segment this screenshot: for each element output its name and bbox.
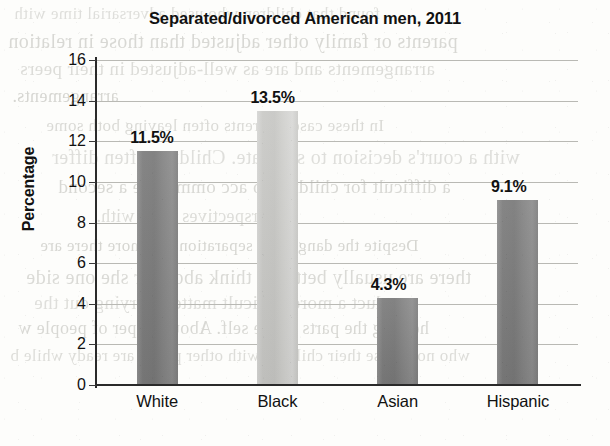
x-axis-category-label-white: White (97, 392, 217, 411)
bar-value-label-asian: 4.3% (371, 276, 407, 294)
y-axis-tick-label: 8 (16, 214, 86, 232)
chart-title: Separated/divorced American men, 2011 (0, 9, 610, 28)
bar-value-label-black: 13.5% (250, 89, 294, 107)
y-axis-tick-label: 4 (16, 295, 86, 313)
bar-value-label-hispanic: 9.1% (491, 178, 527, 196)
y-axis-tick (89, 141, 96, 142)
bar-shading (257, 111, 298, 385)
gridline (97, 60, 578, 61)
bar-white[interactable] (137, 151, 178, 385)
y-axis-tick-label: 10 (16, 173, 86, 191)
gridline (97, 101, 578, 102)
y-axis-tick (89, 304, 96, 305)
bar-black[interactable] (257, 111, 298, 385)
y-axis-tick (89, 344, 96, 345)
bar-shading (497, 200, 538, 385)
bar-chart: Separated/divorced American men, 2011 Pe… (0, 0, 610, 446)
bar-asian[interactable] (377, 298, 418, 385)
x-axis-category-label-hispanic: Hispanic (458, 392, 578, 411)
x-axis-line (95, 384, 581, 386)
y-axis-tick (89, 385, 96, 386)
y-axis-tick-label: 12 (16, 132, 86, 150)
bar-shading (137, 151, 178, 385)
y-axis-tick (89, 60, 96, 61)
y-axis-tick (89, 182, 96, 183)
y-axis-tick-label: 0 (16, 376, 86, 394)
x-axis-category-label-black: Black (217, 392, 337, 411)
y-axis-tick (89, 263, 96, 264)
plot-area (97, 60, 578, 385)
y-axis-tick-label: 2 (16, 335, 86, 353)
y-axis-tick (89, 223, 96, 224)
bar-shading (377, 298, 418, 385)
y-axis-tick-labels: 1614121086420 (8, 0, 86, 446)
bar-hispanic[interactable] (497, 200, 538, 385)
y-axis-tick-label: 16 (16, 51, 86, 69)
bar-value-label-white: 11.5% (130, 129, 174, 147)
x-axis-category-label-asian: Asian (338, 392, 458, 411)
y-axis-tick-label: 6 (16, 254, 86, 272)
y-axis-tick-label: 14 (16, 92, 86, 110)
y-axis-tick (89, 101, 96, 102)
